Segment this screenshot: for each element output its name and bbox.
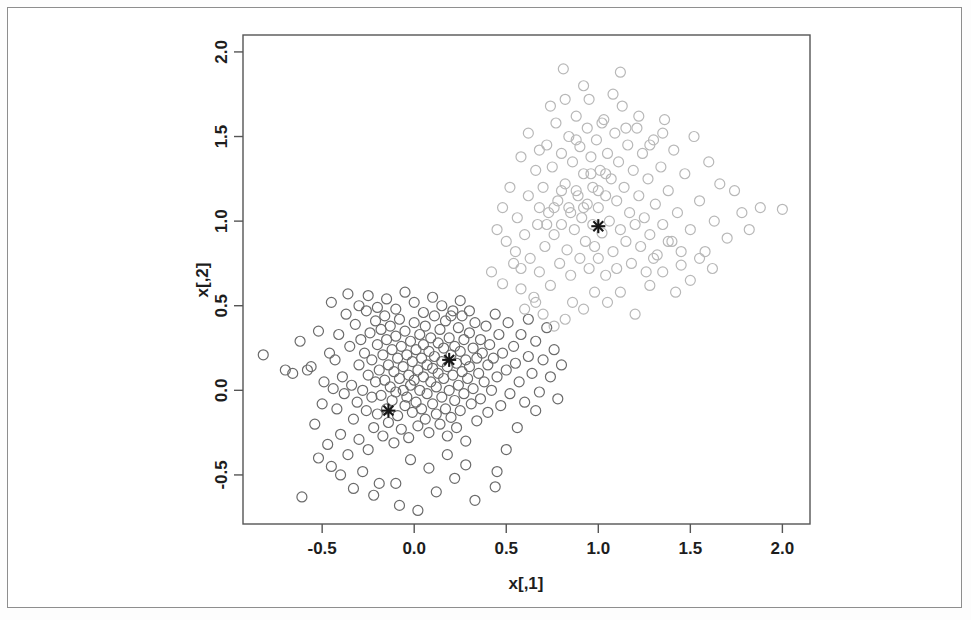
data-point <box>406 455 416 465</box>
data-point <box>470 318 480 328</box>
data-point <box>371 377 381 387</box>
data-point <box>352 397 362 407</box>
data-point <box>520 230 530 240</box>
data-point <box>582 123 592 133</box>
data-point <box>461 460 471 470</box>
data-point <box>418 372 428 382</box>
data-point <box>343 450 353 460</box>
data-point <box>336 470 346 480</box>
data-point <box>755 203 765 213</box>
data-point <box>549 321 559 331</box>
data-point <box>610 128 620 138</box>
data-point <box>382 294 392 304</box>
data-point <box>376 324 386 334</box>
data-point <box>328 384 338 394</box>
data-point <box>612 196 622 206</box>
data-point <box>685 275 695 285</box>
data-point <box>527 368 537 378</box>
data-point <box>501 236 511 246</box>
data-point <box>568 157 578 167</box>
data-point <box>577 213 587 223</box>
data-point <box>643 174 653 184</box>
data-point <box>391 331 401 341</box>
data-point <box>722 233 732 243</box>
data-point <box>374 478 384 488</box>
data-point <box>354 360 364 370</box>
plot-frame <box>243 35 810 524</box>
data-point <box>626 258 636 268</box>
data-point <box>472 416 482 426</box>
data-point <box>417 404 427 414</box>
data-point <box>442 450 452 460</box>
data-point <box>531 336 541 346</box>
data-point <box>608 89 618 99</box>
data-point <box>466 399 476 409</box>
y-axis-ticks: -0.50.00.51.01.52.0 <box>212 40 243 489</box>
centroid-marker <box>381 404 395 418</box>
data-point <box>584 264 594 274</box>
data-point <box>689 132 699 142</box>
data-point <box>437 301 447 311</box>
data-point <box>330 355 340 365</box>
data-point <box>566 270 576 280</box>
data-point <box>363 445 373 455</box>
data-point <box>531 406 541 416</box>
data-point <box>350 319 360 329</box>
data-point <box>575 253 585 263</box>
data-point <box>591 135 601 145</box>
data-point <box>614 157 624 167</box>
data-point <box>601 270 611 280</box>
data-point <box>428 292 438 302</box>
data-point <box>404 433 414 443</box>
data-point <box>326 297 336 307</box>
data-point <box>429 311 439 321</box>
x-tick-label: 0.0 <box>402 539 426 558</box>
data-point <box>383 360 393 370</box>
data-point <box>483 407 493 417</box>
y-tick-label: 0.0 <box>212 379 231 403</box>
data-point <box>547 162 557 172</box>
x-tick-label: 1.5 <box>679 539 703 558</box>
data-point <box>549 345 559 355</box>
data-point <box>492 467 502 477</box>
y-tick-label: 2.0 <box>212 40 231 64</box>
data-point <box>389 367 399 377</box>
data-point <box>459 335 469 345</box>
data-point <box>621 123 631 133</box>
data-point <box>363 291 373 301</box>
data-point <box>650 199 660 209</box>
data-point <box>658 128 668 138</box>
data-point <box>496 401 506 411</box>
data-point <box>593 253 603 263</box>
data-point <box>514 377 524 387</box>
plot-frame-rect <box>243 35 810 524</box>
data-point <box>523 128 533 138</box>
data-point <box>383 417 393 427</box>
data-point <box>407 407 417 417</box>
data-point <box>520 397 530 407</box>
data-point <box>542 140 552 150</box>
data-point <box>608 247 618 257</box>
data-point <box>394 314 404 324</box>
data-point <box>634 111 644 121</box>
data-point <box>660 115 670 125</box>
data-point <box>498 348 508 358</box>
data-point <box>453 323 463 333</box>
data-point <box>361 306 371 316</box>
data-point <box>545 372 555 382</box>
data-point <box>534 203 544 213</box>
data-point <box>448 370 458 380</box>
data-point <box>354 301 364 311</box>
data-point <box>372 409 382 419</box>
data-point <box>737 208 747 218</box>
data-point <box>297 492 307 502</box>
data-point <box>372 302 382 312</box>
data-point <box>603 148 613 158</box>
x-tick-label: 2.0 <box>771 539 795 558</box>
data-point <box>534 267 544 277</box>
data-point <box>501 445 511 455</box>
data-point <box>604 216 614 226</box>
x-tick-label: -0.5 <box>308 539 337 558</box>
data-point <box>485 340 495 350</box>
data-point <box>490 309 500 319</box>
